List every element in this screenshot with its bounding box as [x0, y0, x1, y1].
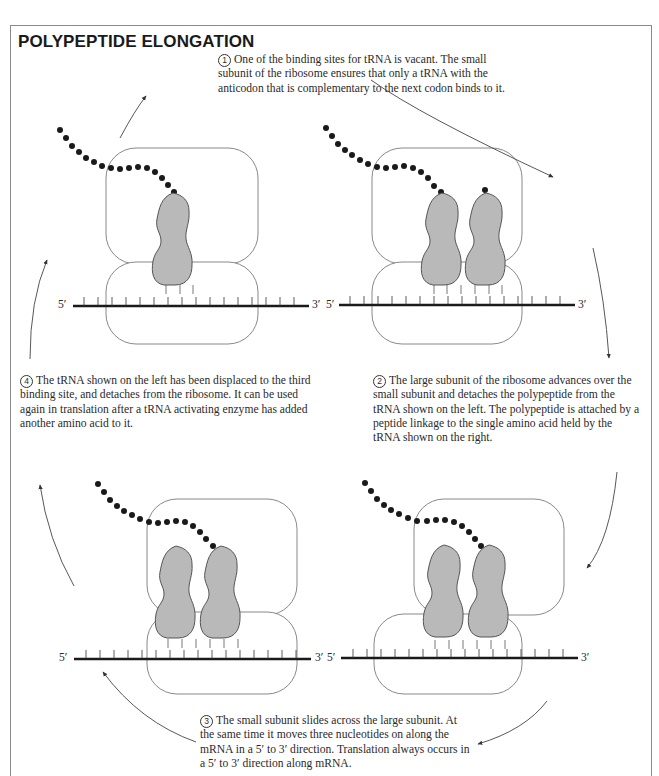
polypeptide-chain — [57, 127, 177, 195]
arrow-to-step-1 — [120, 96, 146, 138]
trna-right — [200, 546, 240, 638]
mrna-3-label-bottom-left: 3′ — [315, 651, 323, 665]
arrow-to-step-3 — [478, 701, 547, 744]
mrna-3-label-bottom-right: 3′ — [581, 651, 589, 665]
polypeptide-chain — [362, 480, 484, 549]
panel-bottom-right — [341, 480, 578, 694]
trna-left — [152, 193, 192, 285]
arrow-step-1-to-top-right — [371, 80, 553, 177]
cycle-arrows — [30, 80, 617, 744]
mrna-5-label-top-right: 5′ — [326, 298, 334, 312]
mrna-5-label-top-left: 5′ — [58, 298, 66, 312]
mrna-5-label-bottom-right: 5′ — [327, 651, 335, 665]
mrna-5-label-bottom-left: 5′ — [59, 651, 67, 665]
arrow-to-bottom-left — [40, 485, 74, 586]
polypeptide-chain — [95, 481, 216, 549]
panel-top-right — [323, 125, 575, 344]
arrow-to-top-left — [30, 260, 47, 359]
mrna-3-label-top-left: 3′ — [312, 298, 320, 312]
trna-left — [421, 193, 461, 285]
panel-top-left — [57, 127, 309, 344]
panel-bottom-left — [74, 481, 311, 694]
trna-left — [155, 546, 195, 638]
trna-left — [423, 545, 463, 637]
polypeptide-chain — [323, 125, 488, 195]
trna-right — [468, 545, 508, 637]
mrna-3-label-top-right: 3′ — [578, 298, 586, 312]
arrow-to-bottom-right — [587, 472, 617, 568]
trna-right — [465, 193, 505, 285]
arrow-to-step-2 — [593, 248, 609, 358]
